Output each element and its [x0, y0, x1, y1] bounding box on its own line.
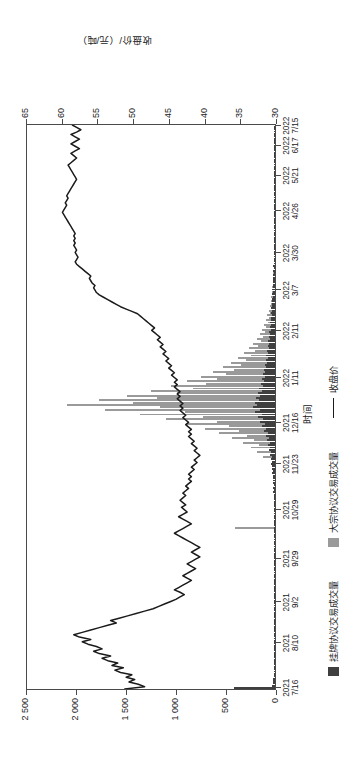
x-tick-label: 20221/11	[283, 355, 301, 401]
legend-item[interactable]: 收盘价	[326, 366, 340, 418]
x-tick-mark	[276, 377, 281, 378]
x-tick-mark	[276, 125, 281, 126]
x-tick-label: 20223/30	[283, 230, 301, 276]
x-tick-label: 202111/23	[283, 441, 301, 487]
x-tick-mark	[276, 252, 281, 253]
chart-figure: 成交量/万吨 收盘价/（元/吨） 时间 05001 0001 5002 0002…	[0, 0, 354, 764]
legend-label: 大宗协议交易成交量	[326, 452, 340, 533]
rotated-figure-wrapper: 成交量/万吨 收盘价/（元/吨） 时间 05001 0001 5002 0002…	[0, 0, 354, 764]
right-tick-label: 35	[234, 88, 244, 118]
right-tick-label: 45	[163, 88, 173, 118]
left-tick-label: 500	[220, 698, 230, 738]
x-tick-label: 20219/29	[283, 536, 301, 582]
right-tick-label: 40	[199, 88, 209, 118]
x-tick-mark	[276, 642, 281, 643]
legend-bar-swatch	[328, 667, 339, 676]
left-tick-label: 2 500	[20, 698, 30, 738]
x-tick-label: 20217/16	[283, 665, 301, 711]
left-tick-label: 2 000	[70, 698, 80, 738]
x-tick-day: 9/29	[292, 536, 301, 582]
legend-label: 挂牌协议交易成交量	[326, 581, 340, 662]
x-tick-day: 7/15	[292, 103, 301, 149]
x-tick-day: 1/11	[292, 355, 301, 401]
right-axis-title: 收盘价/（元/吨）	[77, 34, 152, 48]
x-tick-day: 7/16	[292, 665, 301, 711]
x-tick-day: 10/29	[292, 487, 301, 533]
x-tick-label: 20219/2	[283, 579, 301, 625]
closing-price-line	[27, 125, 275, 689]
x-tick-label: 202110/29	[283, 487, 301, 533]
x-tick-mark	[276, 558, 281, 559]
right-tick-label: 55	[91, 88, 101, 118]
x-tick-day: 3/30	[292, 230, 301, 276]
right-tick-label: 65	[20, 88, 30, 118]
x-tick-mark	[276, 509, 281, 510]
legend-bar-swatch	[328, 538, 339, 547]
x-tick-mark	[276, 289, 281, 290]
x-tick-mark	[276, 210, 281, 211]
x-tick-label: 20218/10	[283, 620, 301, 666]
left-tick-mark	[276, 690, 277, 695]
x-tick-mark	[276, 687, 281, 688]
x-tick-day: 9/2	[292, 579, 301, 625]
x-tick-day: 2/11	[292, 308, 301, 354]
x-tick-day: 11/23	[292, 441, 301, 487]
right-tick-mark	[276, 119, 277, 124]
x-tick-label: 202112/16	[283, 400, 301, 446]
legend-line-swatch	[333, 398, 334, 418]
x-tick-mark	[276, 463, 281, 464]
left-tick-label: 0	[270, 698, 280, 738]
left-tick-mark	[76, 690, 77, 695]
legend-label: 收盘价	[326, 366, 340, 393]
x-tick-mark	[276, 422, 281, 423]
x-tick-label: 20227/15	[283, 103, 301, 149]
left-tick-mark	[126, 690, 127, 695]
x-tick-label: 20222/11	[283, 308, 301, 354]
left-tick-label: 1 500	[120, 698, 130, 738]
x-tick-mark	[276, 330, 281, 331]
left-tick-label: 1 000	[170, 698, 180, 738]
chart-legend: 挂牌协议交易成交量大宗协议交易成交量收盘价	[326, 366, 340, 676]
right-tick-label: 50	[127, 88, 137, 118]
legend-item[interactable]: 挂牌协议交易成交量	[326, 581, 340, 676]
x-tick-mark	[276, 145, 281, 146]
x-tick-day: 12/16	[292, 400, 301, 446]
legend-item[interactable]: 大宗协议交易成交量	[326, 452, 340, 547]
left-tick-mark	[176, 690, 177, 695]
left-tick-mark	[26, 690, 27, 695]
plot-area	[26, 124, 276, 690]
right-tick-label: 30	[270, 88, 280, 118]
right-tick-label: 60	[56, 88, 66, 118]
x-tick-mark	[276, 175, 281, 176]
x-tick-day: 8/10	[292, 620, 301, 666]
x-axis-title: 时间	[300, 404, 314, 424]
x-tick-mark	[276, 601, 281, 602]
left-tick-mark	[226, 690, 227, 695]
